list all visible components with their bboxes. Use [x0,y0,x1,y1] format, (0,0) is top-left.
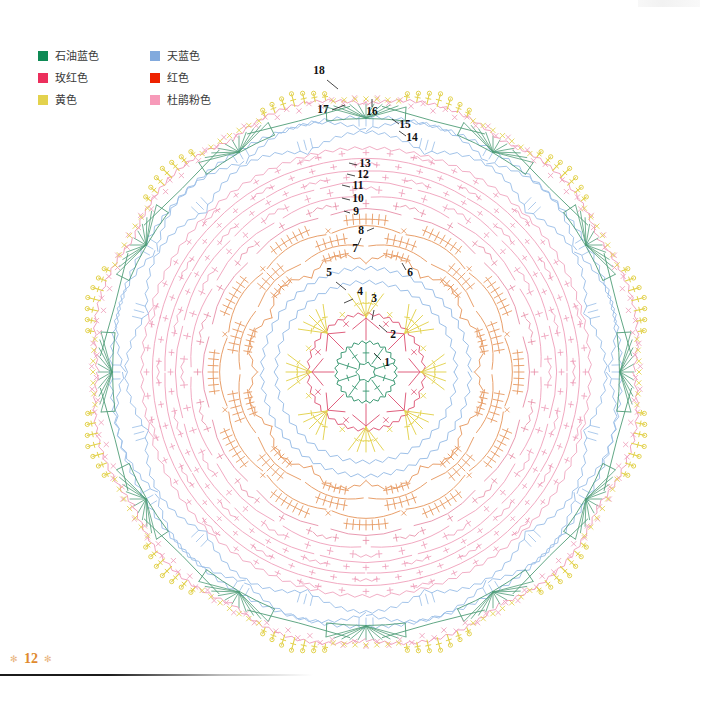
post-crossbar [490,282,493,287]
spike-crossbar [91,410,92,415]
chain-scallop [249,318,272,372]
page-number: 12 [24,652,38,666]
post-stitch [233,156,237,163]
spike-crossbar [301,645,306,646]
spike-crossbar [91,421,92,426]
post-crossbar [233,347,234,353]
post-crossbar [335,240,341,241]
spike-crossbar [637,297,638,302]
post-crossbar [560,350,561,356]
post-stitch [432,142,435,152]
chain-stitch [305,180,326,187]
round-label-5: 5 [326,266,332,278]
post-stitch [590,425,600,427]
post-crossbar [396,576,402,577]
round-label-leader-8 [367,228,374,231]
scallop-arc [516,426,572,524]
spike-crossbar [639,307,640,312]
spike-crossbar [93,442,94,447]
post-crossbar [282,499,287,502]
spike-crossbar [426,98,431,99]
post-crossbar [382,220,388,221]
post-crossbar [515,472,518,477]
post-crossbar [187,333,188,339]
post-crossbar [287,238,292,241]
chain-stitch [519,455,529,472]
post-crossbar [389,254,395,255]
scallop-arc [175,326,182,417]
post-crossbar [445,499,450,502]
flourish-left-icon: ✻ [10,655,18,664]
post-stitch [150,239,157,243]
chain-stitch [401,532,419,538]
fan-crossbar [420,411,421,416]
spike-crossbar [312,97,317,98]
post-crossbar [214,350,215,356]
post-crossbar [382,523,388,524]
post-crossbar [387,590,393,591]
post-stitch [239,585,243,592]
fan-post [493,152,533,163]
chain-stitch [548,362,551,382]
post-crossbar [451,496,456,499]
post-stitch [419,596,421,606]
post-crossbar [333,206,339,207]
scallop-arc [420,166,518,222]
post-crossbar [499,391,500,397]
post-crossbar [473,181,478,184]
arrow-barb [328,410,345,412]
arrow-barb [387,410,404,412]
post-crossbar [195,467,198,472]
fan-post [421,372,444,390]
post-stitch [146,245,153,249]
post-crossbar [440,503,445,506]
chain-stitch [199,319,205,337]
chain-stitch [449,209,466,219]
chain-stitch [313,532,331,538]
fan-post [239,592,261,619]
scallop-arc [144,519,219,594]
arrow-barb [353,415,366,426]
post-crossbar [497,446,500,451]
spike-crossbar [92,307,93,312]
chain-stitch [305,557,326,564]
scallop-arc [502,424,548,503]
post-crossbar [387,154,393,155]
post-stitch [297,142,300,152]
post-crossbar [276,496,281,499]
chain-scallop [366,581,486,623]
post-crossbar [232,293,235,298]
scallop-arc [332,511,400,519]
spike-crossbar [404,97,409,98]
scallop-arc [458,464,515,521]
chain-scallop [460,318,483,372]
post-crossbar [493,288,496,293]
post-crossbar [266,201,271,204]
post-crossbar [486,277,490,282]
post-crossbar [214,388,215,394]
post-crossbar [448,225,453,228]
post-crossbar [497,398,498,404]
post-crossbar [282,241,287,244]
fan-post [120,245,147,267]
post-stitch [389,395,405,411]
post-crossbar [248,343,249,349]
post-crossbar [344,523,350,524]
post-stitch [310,596,312,606]
post-stitch [483,149,487,156]
spike-crossbar [323,97,328,98]
scallop-arc [371,526,449,547]
post-crossbar [440,238,445,241]
scallop-arc [505,338,513,406]
spike-crossbar [436,643,441,644]
fan-post [464,592,493,622]
post-crossbar [243,277,247,282]
post-crossbar [235,288,238,293]
post-crossbar [515,267,518,272]
post-stitch [201,198,208,205]
post-crossbar [584,345,585,351]
post-stitch [134,432,144,435]
post-stitch [133,425,143,427]
post-crossbar [375,386,380,389]
post-stitch [524,539,531,546]
